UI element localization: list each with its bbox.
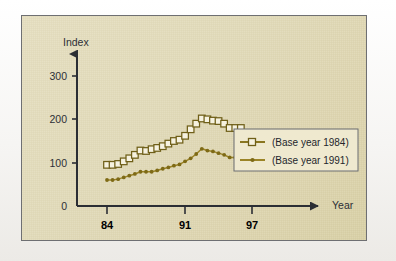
legend-label-1984: (Base year 1984) [272,137,349,148]
y-tick-group: 300 200 100 0 [49,70,78,212]
data-point-marker-dot [189,156,193,160]
data-point-marker-dot [139,170,143,174]
data-point-marker-dot [222,153,226,157]
data-series-layer [104,115,244,182]
legend: (Base year 1984) (Base year 1991) [234,129,358,171]
x-tick-group: 84 91 97 [101,206,258,231]
y-axis-title: Index [63,36,89,48]
y-tick-label-200: 200 [49,113,67,125]
legend-marker-dot-icon [250,158,254,162]
data-point-marker-dot [205,149,209,153]
x-axis-title: Year [332,199,354,211]
data-point-marker-dot [166,166,170,170]
data-point-marker-dot [122,176,126,180]
data-point-marker-dot [116,177,120,181]
data-point-marker-dot [217,151,221,155]
data-point-marker-dot [133,172,137,176]
x-tick-label-97: 97 [246,219,258,231]
data-point-marker-dot [211,150,215,154]
data-point-marker-dot [183,159,187,163]
series-base-1984 [104,115,244,168]
data-point-marker-dot [111,178,115,182]
data-point-marker-dot [127,174,131,178]
y-tick-label-300: 300 [49,70,67,82]
figure-root: Index Year 300 200 100 0 84 91 97 [0,0,396,261]
data-point-marker-dot [150,170,154,174]
y-tick-label-100: 100 [49,157,67,169]
x-tick-label-91: 91 [179,219,191,231]
data-point-marker-dot [161,167,165,171]
data-point-marker-dot [155,169,159,173]
data-point-marker-dot [178,163,182,167]
line-chart: Index Year 300 200 100 0 84 91 97 [22,16,366,240]
legend-marker-square-icon [249,139,256,146]
y-tick-label-0: 0 [61,200,67,212]
data-point-marker-dot [228,156,232,160]
x-tick-label-84: 84 [101,219,114,231]
data-point-marker-dot [144,170,148,174]
legend-label-1991: (Base year 1991) [272,155,349,166]
data-point-marker-dot [105,178,109,182]
data-point-marker-dot [200,147,204,151]
chart-panel-frame: Index Year 300 200 100 0 84 91 97 [21,15,367,241]
data-point-marker-dot [172,164,176,168]
data-point-marker-square [182,133,189,140]
data-point-marker-dot [194,152,198,156]
